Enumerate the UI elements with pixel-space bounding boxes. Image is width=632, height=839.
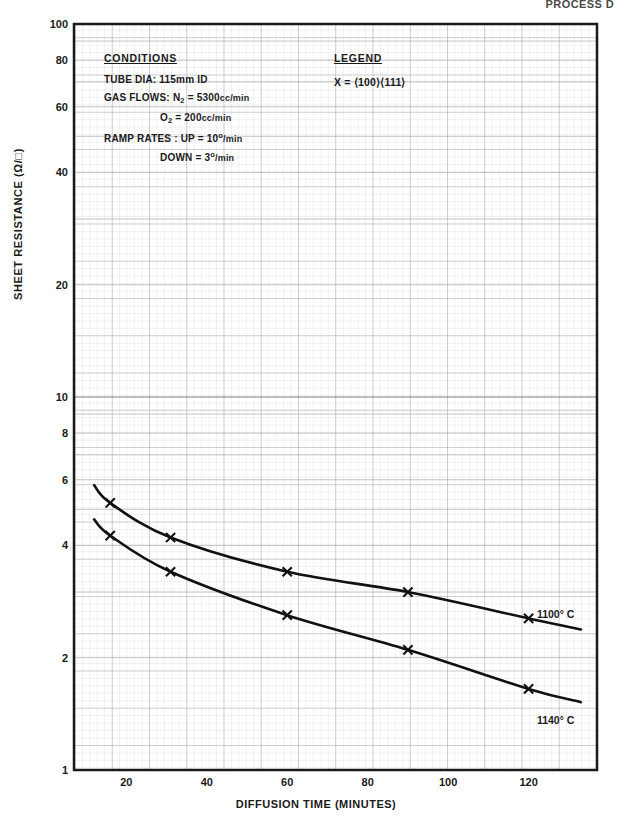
curve-label-1100c: 1100° C (537, 608, 574, 620)
ramp-down-units: /min (215, 153, 234, 163)
n2-value: = 5300 (188, 92, 220, 103)
n2-units: cc/min (220, 93, 250, 103)
o2-value: = 200 (175, 112, 201, 123)
o2-species: O (160, 112, 168, 123)
ramp-down-label: DOWN = 3 (160, 152, 210, 163)
o2-subscript: 2 (168, 116, 172, 125)
gas-flows-label: GAS FLOWS: (104, 92, 170, 103)
conditions-gas-o2: O2 = 200cc/min (160, 112, 231, 125)
conditions-ramp-down: DOWN = 3o/min (160, 150, 234, 163)
conditions-heading: CONDITIONS (104, 52, 177, 64)
legend-entry: X = ⟨100⟩⟨111⟩ (334, 76, 406, 88)
n2-subscript: 2 (180, 96, 184, 105)
ramp-up-units: /min (223, 134, 242, 144)
chart-figure: SHEET RESISTANCE (Ω/□) DIFFUSION TIME (M… (0, 0, 632, 839)
o2-units: cc/min (202, 113, 232, 123)
conditions-ramp-up: RAMP RATES : UP = 10o/min (104, 131, 242, 144)
ramp-up-label: RAMP RATES : UP = 10 (104, 133, 218, 144)
legend-heading: LEGEND (334, 52, 382, 64)
conditions-tube-dia: TUBE DIA: 115mm ID (104, 74, 208, 85)
plot-canvas (0, 0, 632, 839)
curve-label-1140c: 1140° C (537, 714, 574, 726)
conditions-gas-n2: GAS FLOWS: N2 = 5300cc/min (104, 92, 249, 105)
